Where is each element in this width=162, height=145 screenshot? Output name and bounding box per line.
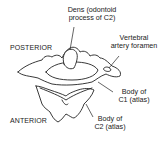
label-body-c1-line2: C1 (atlas) [112,96,156,104]
label-dens: Dens (odontoid process of C2) [60,6,124,22]
leader-dens [70,27,74,50]
label-posterior: POSTERIOR [10,44,52,52]
leader-body-c1 [98,82,113,92]
label-body-c2: Body of C2 (atlas) [88,115,132,131]
label-body-c1: Body of C1 (atlas) [112,88,156,104]
leader-vertebral-artery-foramen [109,56,119,68]
vertebra-diagram: Dens (odontoid process of C2) Vertebral … [0,0,162,145]
label-vaf-line2: artery foramen [106,42,162,50]
label-anterior: ANTERIOR [10,117,47,125]
label-body-c2-line2: C2 (atlas) [88,123,132,131]
label-dens-line2: process of C2) [60,14,124,22]
label-vertebral-artery-foramen: Vertebral artery foramen [106,34,162,50]
dens-shape [63,49,77,69]
